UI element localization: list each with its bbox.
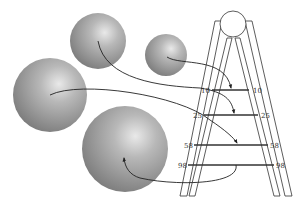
rung-label-right: 98 (276, 162, 285, 170)
sphere-large-bottom (82, 106, 168, 192)
rung-label-left: 58 (184, 142, 193, 150)
rung-label-left: 98 (178, 162, 187, 170)
hinge-circle (220, 11, 246, 37)
sphere-ladder-diagram: 10 10 25 25 58 58 98 98 (0, 0, 302, 207)
rung-label-right: 10 (253, 87, 262, 95)
rung-label-right: 58 (270, 142, 279, 150)
rung-label-right: 25 (261, 112, 270, 120)
sphere-small (145, 34, 187, 76)
